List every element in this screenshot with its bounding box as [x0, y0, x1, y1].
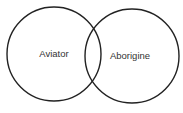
label-aviator: Aviator [39, 48, 68, 59]
label-aborigine: Aborigine [110, 50, 150, 61]
venn-diagram: Aviator Aborigine [0, 0, 183, 113]
